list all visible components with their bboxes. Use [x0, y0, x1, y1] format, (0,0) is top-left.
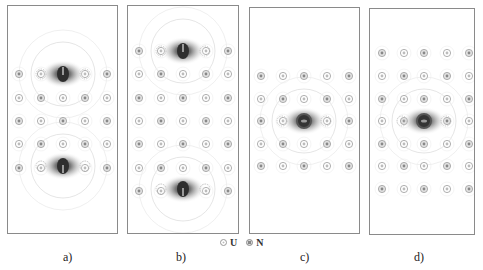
n-atom-icon — [246, 239, 253, 246]
panel-label-b: b) — [176, 250, 186, 265]
density-map-c — [250, 8, 360, 234]
panel-c — [249, 7, 360, 234]
panel-label-a: a) — [63, 250, 72, 265]
panel-b — [127, 5, 239, 234]
legend-label-n: N — [256, 237, 263, 248]
panel-label-c: c) — [300, 250, 309, 265]
panel-d — [369, 8, 475, 235]
density-map-a — [8, 6, 118, 234]
legend-label-u: U — [230, 237, 237, 248]
u-atom-icon — [220, 239, 227, 246]
panel-label-d: d) — [414, 250, 424, 265]
legend: U N — [220, 237, 263, 248]
density-map-d — [370, 9, 475, 235]
panel-a — [7, 5, 118, 234]
density-map-b — [128, 6, 239, 234]
